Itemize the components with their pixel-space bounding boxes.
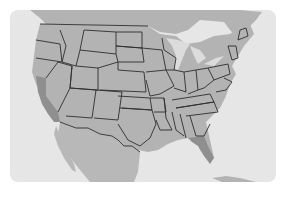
us-map — [10, 10, 276, 182]
cuba — [212, 176, 256, 182]
map-card — [10, 10, 276, 182]
